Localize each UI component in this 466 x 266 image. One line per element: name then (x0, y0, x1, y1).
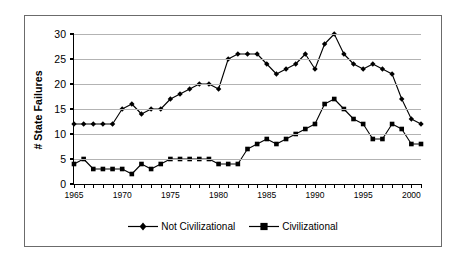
x-axis-tick-mark (93, 184, 94, 188)
x-axis-tick-label: 1995 (354, 191, 373, 200)
gridline (74, 159, 421, 160)
x-axis-tick-label: 1990 (306, 191, 325, 200)
x-axis-tick-mark (238, 184, 239, 188)
y-axis-tick-label: 10 (54, 129, 66, 140)
x-axis-tick-mark (257, 184, 258, 188)
x-axis-tick-mark (363, 184, 364, 188)
x-axis-tick-mark (103, 184, 104, 188)
x-axis-tick-mark (392, 184, 393, 188)
x-axis-tick-mark (296, 184, 297, 188)
gridline (74, 109, 421, 110)
data-point-square (399, 127, 404, 132)
gridline (74, 34, 421, 35)
x-axis-tick-mark (190, 184, 191, 188)
x-axis-tick-mark (305, 184, 306, 188)
data-point-square (139, 162, 144, 167)
x-axis-tick-mark (421, 184, 422, 188)
x-axis-tick-mark (141, 184, 142, 188)
data-point-square (274, 142, 279, 147)
data-point-diamond (177, 91, 182, 96)
chart-figure-frame: # State Failures 05101520253019651970197… (24, 15, 442, 247)
x-axis-tick-mark (344, 184, 345, 188)
x-axis-tick-mark (276, 184, 277, 188)
y-axis-title: # State Failures (31, 34, 45, 185)
data-point-square (255, 142, 260, 147)
data-point-diamond (110, 121, 115, 126)
data-point-square (313, 122, 318, 127)
y-axis-tick-mark (70, 33, 74, 34)
series-line (74, 99, 421, 174)
data-point-square (390, 122, 395, 127)
x-axis-tick-mark (74, 184, 75, 188)
data-point-diamond (312, 66, 317, 71)
x-axis-tick-mark (382, 184, 383, 188)
x-axis-tick-mark (228, 184, 229, 188)
diamond-marker-icon (128, 221, 158, 232)
data-point-square (303, 127, 308, 132)
x-axis-tick-mark (286, 184, 287, 188)
data-point-diamond (380, 66, 385, 71)
x-axis-tick-mark (199, 184, 200, 188)
series-not-civilizational (71, 31, 423, 126)
data-point-square (236, 162, 241, 167)
x-axis-tick-label: 1980 (209, 191, 228, 200)
data-point-diamond (322, 41, 327, 46)
legend-item-not-civilizational[interactable]: Not Civilizational (128, 221, 235, 232)
legend-label-not-civilizational: Not Civilizational (161, 221, 235, 232)
chart-legend: Not Civilizational Civilizational (25, 221, 441, 232)
x-axis-tick-mark (354, 184, 355, 188)
data-point-diamond (264, 61, 269, 66)
data-point-square (216, 162, 221, 167)
data-point-diamond (187, 86, 192, 91)
data-point-square (409, 142, 414, 147)
data-point-square (284, 137, 289, 142)
x-axis-tick-mark (84, 184, 85, 188)
data-point-square (110, 167, 115, 172)
data-point-diamond (274, 71, 279, 76)
data-point-diamond (293, 61, 298, 66)
data-point-diamond (399, 96, 404, 101)
data-point-diamond (341, 51, 346, 56)
x-axis-tick-mark (402, 184, 403, 188)
x-axis-tick-label: 1985 (257, 191, 276, 200)
x-axis-tick-mark (151, 184, 152, 188)
y-axis-tick-mark (70, 108, 74, 109)
x-axis-tick-mark (180, 184, 181, 188)
x-axis-tick-mark (267, 184, 268, 188)
data-point-diamond (235, 51, 240, 56)
gridline (74, 134, 421, 135)
data-point-square (245, 147, 250, 152)
data-point-diamond (168, 96, 173, 101)
data-point-square (130, 172, 135, 177)
data-point-diamond (81, 121, 86, 126)
y-axis-tick-label: 25 (54, 54, 66, 65)
data-point-square (322, 102, 327, 107)
data-point-diamond (351, 61, 356, 66)
y-axis-tick-label: 30 (54, 29, 66, 40)
data-point-square (264, 137, 269, 142)
data-point-square (371, 137, 376, 142)
x-axis-tick-mark (325, 184, 326, 188)
x-axis-tick-mark (132, 184, 133, 188)
data-point-diamond (409, 116, 414, 121)
data-point-diamond (418, 121, 423, 126)
data-point-square (226, 162, 231, 167)
x-axis-tick-mark (170, 184, 171, 188)
y-axis-tick-mark (70, 83, 74, 84)
plot-area: 0510152025301965197019751980198519901995… (73, 34, 421, 185)
gridline (74, 59, 421, 60)
data-point-square (332, 97, 337, 102)
data-point-diamond (370, 61, 375, 66)
x-axis-tick-label: 1965 (65, 191, 84, 200)
data-point-diamond (389, 71, 394, 76)
data-point-diamond (360, 66, 365, 71)
x-axis-tick-mark (334, 184, 335, 188)
data-point-diamond (100, 121, 105, 126)
data-point-diamond (254, 51, 259, 56)
legend-item-civilizational[interactable]: Civilizational (249, 221, 338, 232)
data-point-square (380, 137, 385, 142)
x-axis-tick-label: 1970 (113, 191, 132, 200)
gridline (74, 84, 421, 85)
x-axis-tick-mark (315, 184, 316, 188)
y-axis-tick-mark (70, 133, 74, 134)
